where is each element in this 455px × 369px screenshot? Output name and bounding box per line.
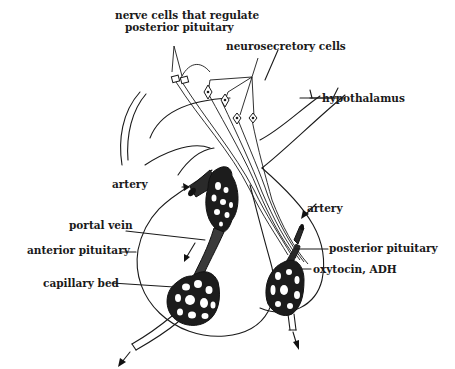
label-anterior-pituitary: anterior pituitary: [27, 244, 131, 256]
posterior-outflow-vein: [288, 314, 299, 350]
pituitary-diagram: nerve cells that regulate posterior pitu…: [0, 0, 455, 369]
label-posterior-pituitary: posterior pituitary: [329, 242, 438, 254]
regulating-nerve-cells: [171, 46, 188, 84]
label-artery-right: artery: [307, 202, 343, 214]
anterior-outflow-vein: [118, 316, 178, 367]
label-neurosecretory-cells: neurosecretory cells: [226, 40, 346, 52]
label-hypothalamus: hypothalamus: [322, 92, 405, 104]
labels: nerve cells that regulate posterior pitu…: [27, 9, 438, 289]
diagram-canvas: nerve cells that regulate posterior pitu…: [0, 0, 455, 369]
label-nerve-cells-line1: nerve cells that regulate: [115, 9, 260, 21]
nerve-fibers: [176, 64, 308, 264]
label-artery-left: artery: [112, 178, 148, 190]
posterior-capillary-bed: [266, 260, 304, 315]
label-nerve-cells-line2: posterior pituitary: [125, 21, 234, 33]
anterior-capillary-bed: [167, 272, 219, 326]
label-portal-vein: portal vein: [69, 219, 133, 231]
neurosecretory-cell-group: [204, 58, 258, 124]
primary-capillary-network: [206, 167, 238, 232]
label-oxytocin-adh: oxytocin, ADH: [313, 263, 397, 275]
label-capillary-bed: capillary bed: [43, 277, 120, 289]
portal-vein: [194, 228, 224, 278]
